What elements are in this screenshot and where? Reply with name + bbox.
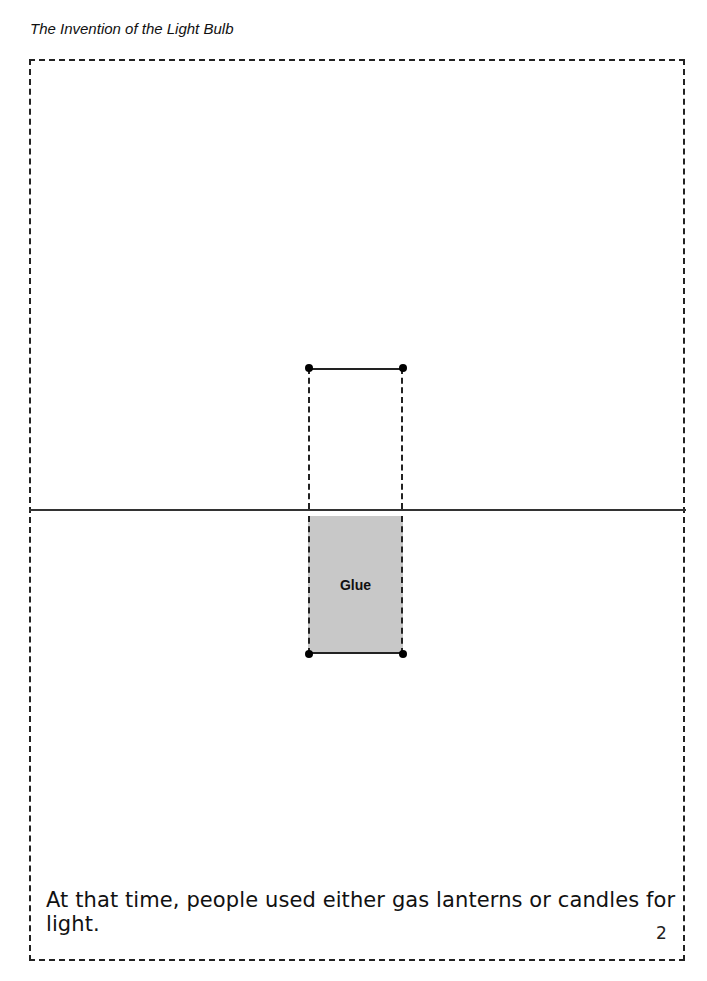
page-sentence: At that time, people used either gas lan… (46, 888, 707, 936)
dot-top-right (399, 364, 407, 372)
tab-top-flap (308, 368, 403, 509)
dot-top-left (305, 364, 313, 372)
page-number: 2 (656, 923, 667, 943)
header-title: The Invention of the Light Bulb (30, 20, 233, 37)
dot-bottom-left (305, 650, 313, 658)
glue-label: Glue (310, 577, 401, 593)
glue-box: Glue (308, 516, 403, 654)
fold-line (29, 509, 686, 511)
dot-bottom-right (399, 650, 407, 658)
